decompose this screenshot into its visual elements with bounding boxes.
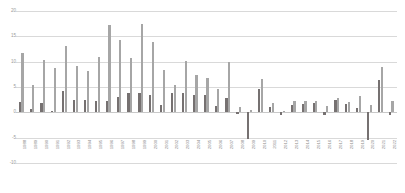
x-tick-label: 2006 (219, 140, 223, 149)
bar (261, 79, 263, 112)
x-tick-label: 1996 (110, 140, 114, 149)
bar (304, 101, 306, 112)
bar (152, 42, 154, 112)
x-tick-label: 2008 (241, 140, 245, 149)
bar (315, 101, 317, 113)
bar (348, 102, 350, 113)
bar (76, 66, 78, 113)
bar (119, 40, 121, 112)
x-tick-label: 1992 (67, 140, 71, 149)
x-tick-label: 1999 (143, 140, 147, 149)
y-tick-label: 15 (2, 34, 16, 39)
x-tick-label: 2000 (154, 140, 158, 149)
bar (228, 62, 230, 112)
x-tick-label: 1988 (23, 140, 27, 149)
x-tick-label: 2004 (197, 140, 201, 149)
bar (54, 68, 56, 112)
bar (217, 89, 219, 113)
bar (43, 60, 45, 112)
bar (247, 112, 249, 138)
bar (391, 101, 393, 112)
bar (337, 98, 339, 112)
bar (326, 106, 328, 112)
x-tick-label: 1998 (132, 140, 136, 149)
bar (21, 53, 23, 113)
x-tick-label: 2020 (371, 140, 375, 149)
x-tick-label: 1994 (88, 140, 92, 149)
x-tick-label: 2017 (339, 140, 343, 149)
bar (239, 107, 241, 112)
bar (195, 75, 197, 112)
bar-chart: 20151050-5-10 19881989199019911992199319… (0, 0, 405, 193)
x-tick-label: 2009 (252, 140, 256, 149)
x-tick-label: 2005 (208, 140, 212, 149)
bar (141, 24, 143, 113)
x-tick-label: 2021 (382, 140, 386, 149)
x-tick-label: 2007 (230, 140, 234, 149)
bar (236, 112, 238, 114)
x-tick-label: 2014 (306, 140, 310, 149)
bar (280, 112, 282, 115)
bar (130, 58, 132, 112)
bar (98, 57, 100, 112)
x-tick-label: 2012 (284, 140, 288, 149)
bar (283, 111, 285, 112)
x-tick-label: 2002 (175, 140, 179, 149)
bar (381, 67, 383, 113)
x-tick-label: 1995 (99, 140, 103, 149)
bar (323, 112, 325, 115)
x-tick-label: 1993 (77, 140, 81, 149)
bar (370, 105, 372, 112)
bar (272, 103, 274, 112)
x-tick-label: 1997 (121, 140, 125, 149)
bar (174, 85, 176, 112)
bar (32, 85, 34, 112)
x-axis-labels: 1988198919901991199219931994199519961997… (16, 140, 397, 170)
x-tick-label: 2015 (317, 140, 321, 149)
y-tick-label: 10 (2, 60, 16, 65)
bar (206, 78, 208, 112)
bar (185, 61, 187, 113)
bar (108, 25, 110, 112)
x-tick-label: 1991 (56, 140, 60, 149)
bar (389, 112, 391, 115)
bar (293, 101, 295, 113)
y-tick-label: -10 (2, 161, 16, 166)
x-tick-label: 2016 (328, 140, 332, 149)
bar (250, 110, 252, 112)
x-tick-label: 2022 (393, 140, 397, 149)
x-tick-label: 2003 (186, 140, 190, 149)
bar (163, 70, 165, 113)
x-tick-label: 1989 (34, 140, 38, 149)
bar (359, 96, 361, 113)
y-tick-label: 5 (2, 85, 16, 90)
x-tick-label: 2013 (295, 140, 299, 149)
y-tick-label: -5 (2, 136, 16, 141)
x-tick-label: 2011 (273, 140, 277, 149)
y-tick-label: 0 (2, 110, 16, 115)
x-tick-label: 2019 (361, 140, 365, 149)
bar (65, 46, 67, 112)
y-tick-label: 20 (2, 9, 16, 14)
x-tick-label: 2010 (263, 140, 267, 149)
x-tick-label: 2001 (165, 140, 169, 149)
x-tick-label: 1990 (45, 140, 49, 149)
x-tick-label: 2018 (350, 140, 354, 149)
bar (87, 71, 89, 113)
bar (367, 112, 369, 140)
